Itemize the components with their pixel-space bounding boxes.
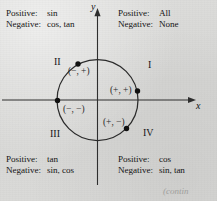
figure-page: Positive:sin Negative:cos, tan Positive:…	[0, 0, 217, 201]
point-quadrant-1	[135, 88, 140, 93]
x-axis-arrowhead	[188, 97, 196, 103]
sign-pair-quadrant-1: (+, +)	[110, 85, 132, 95]
quadrant-label-4: IV	[143, 128, 154, 138]
quadrant-label-1: I	[148, 60, 151, 70]
quadrant-label-3: III	[50, 129, 60, 139]
sign-pair-quadrant-2: (−, +)	[68, 66, 90, 76]
continued-note: (contin	[163, 186, 189, 196]
unit-circle-plot	[0, 0, 217, 201]
y-axis-label: y	[91, 1, 95, 12]
sign-pair-quadrant-4: (+, −)	[103, 117, 125, 127]
quadrant-label-2: II	[54, 57, 61, 67]
y-axis	[94, 8, 100, 185]
sign-pair-quadrant-3: (−, −)	[63, 104, 85, 114]
point-quadrant-3	[55, 98, 60, 103]
x-axis	[2, 97, 196, 103]
x-axis-label: x	[196, 100, 200, 111]
